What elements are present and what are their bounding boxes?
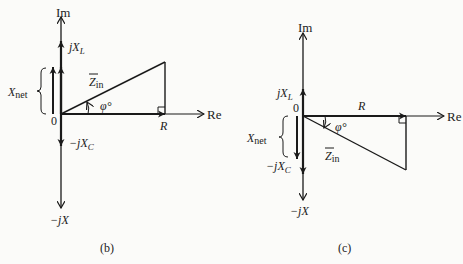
panel-c: Im Re 0 jXL −jXC −jX Xnet Zin φ° R (c): [246, 20, 462, 255]
phi-label: φ°: [100, 99, 112, 113]
phi-arc: [324, 116, 326, 128]
im-axis-label: Im: [56, 5, 70, 20]
re-axis-label: Re: [207, 107, 222, 122]
jxl-label: jXL: [67, 40, 85, 56]
jxc-label: −jXC: [69, 136, 95, 152]
im-axis-label: Im: [298, 20, 312, 35]
jxc-label: −jXC: [266, 159, 292, 175]
xnet-label: Xnet: [7, 85, 28, 100]
origin-label: 0: [51, 114, 57, 128]
origin-label: 0: [293, 101, 299, 115]
xnet-brace: [37, 68, 46, 114]
panel-b: Im Re 0 jXL −jXC −jX Xnet Zin φ° R (b): [7, 5, 222, 255]
re-axis-label: Re: [447, 109, 462, 124]
phi-label: φ°: [335, 120, 347, 134]
zin-label: Zin: [325, 149, 339, 164]
r-label: R: [357, 99, 366, 113]
jxl-label: jXL: [275, 86, 293, 102]
caption-c: (c): [338, 241, 351, 255]
right-angle-mark: [399, 116, 406, 123]
r-label: R: [159, 119, 168, 133]
right-angle-mark: [158, 107, 165, 114]
zin-label: Zin: [89, 75, 103, 90]
xnet-brace: [279, 116, 288, 157]
phi-arc: [87, 102, 89, 114]
zin-hypotenuse: [61, 62, 165, 114]
xnet-label: Xnet: [246, 131, 267, 146]
minus-jx-label: −jX: [50, 213, 69, 227]
minus-jx-label: −jX: [290, 204, 309, 218]
impedance-diagrams: Im Re 0 jXL −jXC −jX Xnet Zin φ° R (b) I…: [0, 0, 463, 264]
zin-hypotenuse: [303, 116, 406, 170]
caption-b: (b): [100, 241, 114, 255]
